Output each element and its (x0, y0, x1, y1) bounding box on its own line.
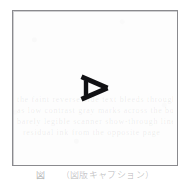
figure-caption: 図 （図版キャプション） (12, 171, 178, 181)
letter-a-rotated-icon (80, 74, 110, 102)
glyph-container (13, 11, 177, 165)
figure-caption-label: 図 (36, 171, 45, 180)
scanned-page: the faint reverse-side text bleeds throu… (0, 0, 191, 181)
figure-frame: the faint reverse-side text bleeds throu… (12, 10, 178, 166)
figure-caption-text: （図版キャプション） (61, 171, 155, 180)
